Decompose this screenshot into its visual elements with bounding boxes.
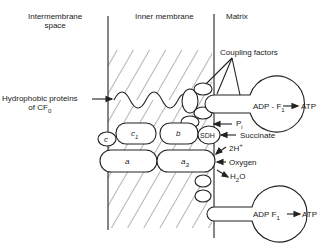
complex-c-label: c — [104, 135, 108, 144]
label-pi: Pi — [236, 119, 243, 132]
label-adp-f1-bottom: ADP F1 — [253, 210, 280, 223]
label-oxygen: Oxygen — [229, 158, 257, 167]
complex-sdh-label: SDH — [200, 131, 215, 140]
region-matrix: Matrix — [226, 12, 248, 21]
complex-c1-label: c1 — [131, 129, 138, 142]
cf-oval-2 — [194, 83, 212, 95]
region-inner-membrane: Inner membrane — [135, 12, 194, 21]
label-2h: 2H+ — [229, 141, 243, 153]
label-atp-bottom: ATP — [302, 210, 317, 219]
complex-a3-label: a3 — [181, 157, 189, 170]
complex-a-label: a — [125, 157, 129, 166]
label-adp-f1-top: ADP - F1 — [253, 102, 285, 115]
label-coupling-factors: Coupling factors — [220, 48, 278, 57]
complex-b-label: b — [176, 129, 180, 138]
label-atp-top: ATP — [301, 102, 316, 111]
mitochondrial-membrane-diagram: Intermembranespace Inner membrane Matrix… — [0, 0, 326, 248]
label-h2o: H2O — [230, 172, 245, 185]
region-intermembrane: Intermembranespace — [28, 12, 82, 30]
label-hydrophobic: Hydrophobic proteinsof CF0 — [2, 94, 78, 116]
label-succinate: Succinate — [240, 131, 275, 140]
